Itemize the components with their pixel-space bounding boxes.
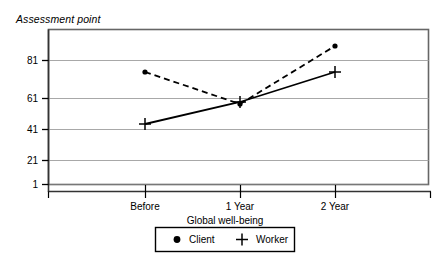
x-tick-label-before: Before	[130, 201, 160, 212]
x-tick-label-1-year: 1 Year	[226, 201, 255, 212]
chart-container: Assessment point 81 61 41 21 1	[0, 0, 444, 265]
x-axis-title: Global well-being	[187, 215, 264, 226]
worker-marker-before	[139, 118, 151, 130]
y-tick-label-41: 41	[27, 124, 39, 135]
gridlines	[49, 61, 429, 185]
worker-marker-2-year	[329, 66, 341, 78]
y-tick-label-21: 21	[27, 155, 39, 166]
chart-plot: 81 61 41 21 1 Before 1 Year 2 Year Globa…	[0, 0, 444, 265]
y-tick-label-1: 1	[32, 179, 38, 190]
y-tick-label-61: 61	[27, 93, 39, 104]
client-marker-before	[142, 69, 147, 74]
y-tick-marks	[42, 61, 49, 185]
x-tick-label-2-year: 2 Year	[321, 201, 350, 212]
legend-marker-client-icon	[174, 236, 181, 243]
legend: Client Worker	[156, 228, 295, 252]
client-marker-1-year	[237, 101, 242, 106]
plot-frame	[49, 30, 429, 185]
client-marker-2-year	[332, 43, 337, 48]
legend-label-worker: Worker	[256, 234, 289, 245]
legend-label-client: Client	[189, 234, 215, 245]
y-tick-label-81: 81	[27, 55, 39, 66]
client-line	[145, 46, 335, 104]
